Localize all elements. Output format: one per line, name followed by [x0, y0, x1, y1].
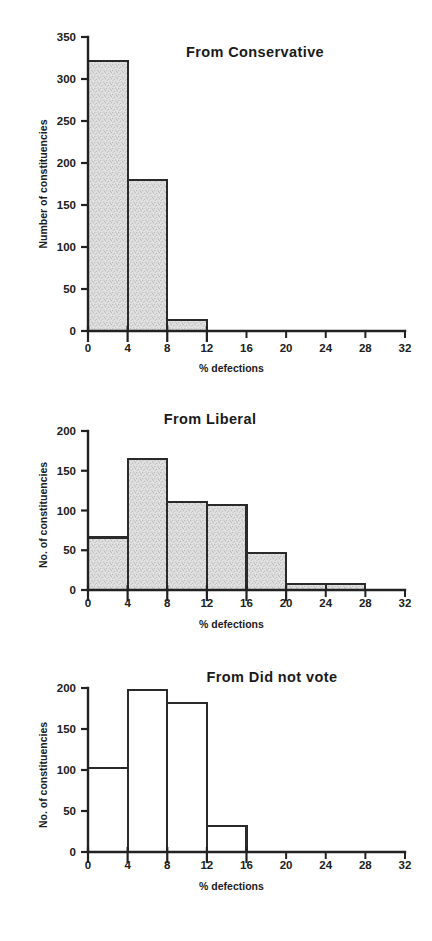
chart-title: From Liberal	[164, 411, 257, 427]
x-tick-label: 32	[399, 342, 412, 354]
x-tick-label: 8	[164, 859, 171, 871]
x-tick-label: 20	[280, 597, 293, 609]
y-tick-label: 0	[70, 325, 76, 337]
y-tick-label: 150	[57, 199, 76, 211]
x-axis-label: % defections	[199, 362, 264, 374]
x-tick-label: 8	[164, 597, 171, 609]
x-tick-label: 12	[200, 859, 213, 871]
chart-svg: 050100150200048121620242832From Liberal%…	[0, 390, 432, 640]
y-tick-label: 200	[57, 682, 76, 694]
y-tick-label: 150	[57, 723, 76, 735]
y-tick-label: 50	[63, 544, 76, 556]
y-tick-label: 0	[70, 584, 76, 596]
x-tick-label: 28	[359, 597, 372, 609]
bar	[167, 502, 207, 590]
y-tick-label: 200	[57, 425, 76, 437]
x-tick-label: 4	[124, 342, 131, 354]
y-axis-label: No. of constituencies	[37, 462, 49, 568]
bar	[207, 826, 247, 852]
y-axis-label: Number of constituencies	[37, 119, 49, 248]
y-tick-label: 50	[63, 805, 76, 817]
chart-panel-from-conservative: 050100150200250300350048121620242832From…	[0, 0, 432, 390]
y-tick-label: 0	[70, 846, 76, 858]
chart-title: From Conservative	[186, 44, 324, 60]
x-tick-label: 0	[85, 597, 91, 609]
x-tick-label: 32	[399, 859, 412, 871]
bar-series	[88, 61, 207, 331]
chart-svg: 050100150200048121620242832From Did not …	[0, 640, 432, 941]
x-tick-label: 16	[240, 342, 253, 354]
y-axis-label: No. of constituencies	[37, 722, 49, 828]
x-tick-label: 28	[359, 859, 372, 871]
bar-series	[88, 459, 365, 590]
x-tick-label: 24	[319, 342, 332, 354]
x-tick-label: 12	[200, 342, 213, 354]
x-tick-label: 0	[85, 342, 91, 354]
x-axis-label: % defections	[199, 618, 264, 630]
bar	[247, 553, 287, 590]
bar	[128, 459, 168, 590]
x-tick-label: 20	[280, 342, 293, 354]
x-tick-label: 4	[124, 597, 131, 609]
y-tick-label: 200	[57, 157, 76, 169]
x-tick-label: 32	[399, 597, 412, 609]
bar	[207, 505, 247, 590]
bar	[167, 703, 207, 852]
x-tick-label: 12	[200, 597, 213, 609]
y-tick-label: 300	[57, 73, 76, 85]
x-tick-label: 28	[359, 342, 372, 354]
y-tick-label: 100	[57, 764, 76, 776]
bar	[88, 768, 128, 852]
x-tick-label: 0	[85, 859, 91, 871]
y-tick-label: 100	[57, 505, 76, 517]
y-tick-label: 350	[57, 31, 76, 43]
chart-svg: 050100150200250300350048121620242832From…	[0, 0, 432, 390]
x-tick-label: 4	[124, 859, 131, 871]
bar	[88, 61, 128, 331]
y-tick-label: 50	[63, 283, 76, 295]
bar	[88, 538, 128, 590]
bar	[128, 180, 168, 331]
y-tick-label: 150	[57, 465, 76, 477]
x-tick-label: 16	[240, 859, 253, 871]
x-tick-label: 8	[164, 342, 171, 354]
chart-panel-from-liberal: 050100150200048121620242832From Liberal%…	[0, 390, 432, 640]
y-tick-label: 250	[57, 115, 76, 127]
bar-series	[88, 690, 247, 852]
x-axis-label: % defections	[199, 880, 264, 892]
y-tick-label: 100	[57, 241, 76, 253]
bar	[128, 690, 168, 852]
chart-title: From Did not vote	[207, 669, 338, 685]
chart-panel-from-did-not-vote: 050100150200048121620242832From Did not …	[0, 640, 432, 941]
x-tick-label: 16	[240, 597, 253, 609]
x-tick-label: 24	[319, 597, 332, 609]
bar	[167, 320, 207, 331]
x-tick-label: 20	[280, 859, 293, 871]
x-tick-label: 24	[319, 859, 332, 871]
